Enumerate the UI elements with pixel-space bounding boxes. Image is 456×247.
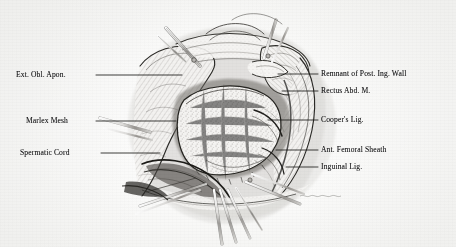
label-rectus-abd-m: Rectus Abd. M.: [321, 86, 370, 95]
label-coopers-lig: Cooper's Lig.: [321, 115, 364, 124]
label-inguinal-lig: Inguinal Lig.: [321, 162, 362, 171]
label-marlex-mesh: Marlex Mesh: [26, 116, 68, 125]
label-remnant-post-ing-wall: Remnant of Post. Ing. Wall: [321, 69, 406, 78]
illustration-artwork: [0, 0, 456, 247]
surgical-illustration-figure: Ext. Obl. Apon. Marlex Mesh Spermatic Co…: [0, 0, 456, 247]
label-spermatic-cord: Spermatic Cord: [20, 148, 70, 157]
label-ant-femoral-sheath: Ant. Femoral Sheath: [321, 145, 386, 154]
label-ext-obl-apon: Ext. Obl. Apon.: [16, 70, 66, 79]
